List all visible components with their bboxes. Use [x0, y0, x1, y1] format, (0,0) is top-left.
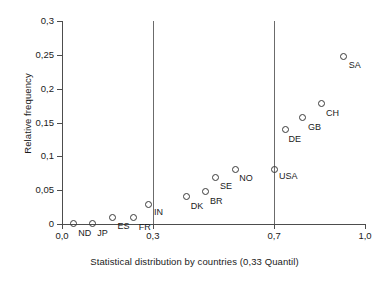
y-tick-mark	[57, 123, 62, 124]
data-point-marker	[109, 214, 116, 221]
data-point-label: BR	[210, 197, 223, 206]
x-tick-label: 0,3	[133, 231, 173, 241]
y-tick-label: 0,05	[0, 185, 54, 195]
data-point-marker	[282, 126, 289, 133]
data-point-marker	[145, 201, 152, 208]
data-point-label: ND	[78, 229, 91, 238]
y-tick-mark	[57, 156, 62, 157]
data-point-label: SE	[220, 182, 232, 191]
data-point-label: DK	[191, 202, 204, 211]
data-point-label: NO	[239, 174, 253, 183]
data-point-label: CH	[326, 109, 339, 118]
data-point-marker	[130, 214, 137, 221]
y-tick-mark	[57, 190, 62, 191]
data-point-marker	[271, 166, 278, 173]
y-tick-label: 0,3	[0, 16, 54, 26]
y-tick-label: 0,1	[0, 151, 54, 161]
data-point-label: DE	[289, 135, 302, 144]
data-point-marker	[89, 220, 96, 227]
y-axis-title: Relative frequency	[22, 19, 33, 209]
y-tick-mark	[57, 21, 62, 22]
quantile-reference-line	[153, 21, 154, 224]
y-tick-label: 0	[0, 219, 54, 229]
data-point-marker	[202, 188, 209, 195]
x-tick-label: 0,0	[42, 231, 82, 241]
x-tick-mark	[365, 224, 366, 229]
quantile-reference-line	[274, 21, 275, 224]
y-tick-label: 0,15	[0, 118, 54, 128]
y-tick-label: 0,25	[0, 50, 54, 60]
data-point-marker	[340, 53, 347, 60]
x-tick-label: 1,0	[345, 231, 385, 241]
data-point-label: USA	[279, 172, 298, 181]
data-point-label: JP	[97, 229, 108, 238]
x-tick-mark	[153, 224, 154, 229]
data-point-marker	[318, 100, 325, 107]
x-axis-line	[62, 224, 365, 225]
data-point-marker	[183, 193, 190, 200]
data-point-label: SA	[349, 61, 361, 70]
data-point-label: IN	[154, 208, 163, 217]
data-point-label: FR	[139, 223, 151, 232]
data-point-label: ES	[118, 222, 130, 231]
data-point-label: GB	[308, 123, 321, 132]
data-point-marker	[232, 166, 239, 173]
x-tick-mark	[274, 224, 275, 229]
x-tick-label: 0,7	[254, 231, 294, 241]
y-tick-mark	[57, 55, 62, 56]
scatter-chart: Relative frequency 00,050,10,150,20,250,…	[0, 0, 389, 281]
x-tick-mark	[62, 224, 63, 229]
data-point-marker	[212, 174, 219, 181]
y-tick-mark	[57, 89, 62, 90]
data-point-marker	[299, 114, 306, 121]
y-tick-label: 0,2	[0, 84, 54, 94]
data-point-marker	[70, 220, 77, 227]
x-axis-title: Statistical distribution by countries (0…	[0, 256, 389, 267]
